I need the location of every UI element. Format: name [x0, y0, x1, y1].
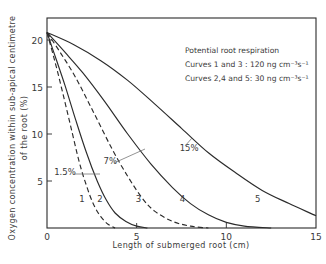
curve-label-1: 1: [79, 194, 84, 204]
x-axis-title: Length of submerged root (cm): [113, 241, 250, 250]
legend-curves-1-3: Curves 1 and 3 : 120 ng cm⁻³s⁻¹: [185, 60, 309, 69]
y-axis-title-line1: Oxygen concentration within sub-apical c…: [8, 16, 17, 241]
oxygen-concentration-chart: 0510155101520 12345 1.5%7%15% Potential …: [0, 0, 326, 264]
y-tick-label: 10: [32, 130, 44, 140]
annotation-label: 7%: [103, 156, 117, 166]
y-tick-label: 20: [32, 36, 44, 46]
curve-labels: 12345: [79, 194, 260, 204]
curve-label-3: 3: [136, 194, 141, 204]
x-tick-label: 0: [44, 232, 50, 242]
y-tick-label: 15: [32, 83, 43, 93]
annotation-label: 15%: [180, 143, 199, 153]
curve-label-5: 5: [255, 194, 260, 204]
curve-label-2: 2: [97, 194, 102, 204]
x-tick-label: 15: [310, 232, 321, 242]
annotation-label: 1.5%: [54, 167, 76, 177]
curve-label-4: 4: [180, 194, 185, 204]
legend-curves-2-4-5: Curves 2,4 and 5: 30 ng cm⁻³s⁻¹: [185, 74, 309, 83]
legend-title: Potential root respiration: [185, 46, 279, 55]
y-tick-label: 5: [37, 177, 43, 187]
percent-annotations: 1.5%7%15%: [54, 138, 198, 177]
annotation-leader-line: [114, 149, 145, 163]
y-axis-title: Oxygen concentration within sub-apical c…: [8, 16, 29, 241]
y-axis-title-line2: of the root (%): [20, 96, 29, 160]
legend: Potential root respiration Curves 1 and …: [185, 46, 309, 83]
